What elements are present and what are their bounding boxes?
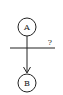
cut-line-label: ? xyxy=(48,38,52,47)
diagram-canvas: A ? B xyxy=(0,0,63,95)
node-b: B xyxy=(18,74,36,92)
node-b-label: B xyxy=(24,79,30,88)
node-a: A xyxy=(18,18,36,36)
node-a-label: A xyxy=(23,23,30,32)
cut-line: ? xyxy=(10,38,55,48)
edge-a-to-b xyxy=(24,36,31,73)
